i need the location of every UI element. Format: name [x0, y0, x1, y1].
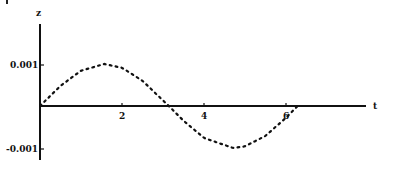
y-tick-label-neg: -0.001 — [6, 144, 38, 154]
line-chart: z t 0.001 -0.001 2 4 6 — [0, 0, 393, 169]
x-tick-label-2: 2 — [119, 111, 125, 121]
x-tick-label-4: 4 — [201, 111, 207, 121]
scan-mark — [6, 0, 8, 4]
t-axis-label: t — [373, 101, 378, 111]
z-axis-label: z — [36, 8, 41, 18]
y-tick-label-pos: 0.001 — [10, 60, 38, 70]
